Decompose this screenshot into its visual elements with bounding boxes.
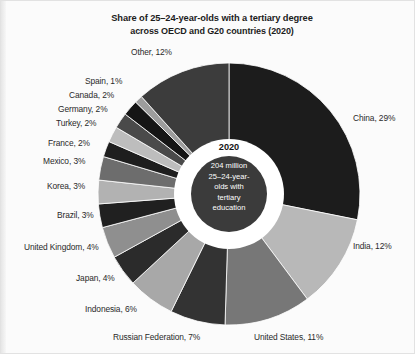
slice-label-china: China, 29% — [353, 113, 395, 123]
slice-label-korea: Korea, 3% — [47, 181, 85, 191]
slice-label-other: Other, 12% — [131, 47, 172, 57]
chart-page: Share of 25–24-year-olds with a tertiary… — [0, 0, 415, 354]
slice-label-india: India, 12% — [353, 241, 392, 251]
slice-label-canada: Canada, 2% — [69, 90, 114, 100]
slice-label-russian-federation: Russian Federation, 7% — [113, 332, 200, 342]
center-annotation-line: education — [191, 203, 267, 214]
slice-label-united-states: United States, 11% — [254, 332, 323, 342]
slice-label-spain: Spain, 1% — [85, 76, 122, 86]
center-year-label: 2020 — [179, 142, 279, 152]
slice-label-france: France, 2% — [48, 138, 90, 148]
slice-label-turkey: Turkey, 2% — [56, 118, 96, 128]
center-annotation: 204 million25–24-year-olds withtertiarye… — [191, 161, 267, 214]
center-annotation-line: 25–24-year- — [191, 172, 267, 183]
slice-label-united-kingdom: United Kingdom, 4% — [24, 242, 99, 252]
center-annotation-line: 204 million — [191, 161, 267, 172]
center-annotation-line: tertiary — [191, 193, 267, 204]
slice-label-indonesia: Indonesia, 6% — [85, 304, 137, 314]
slice-label-brazil: Brazil, 3% — [57, 210, 94, 220]
center-annotation-line: olds with — [191, 182, 267, 193]
slice-label-germany: Germany, 2% — [58, 104, 107, 114]
slice-label-mexico: Mexico, 3% — [43, 156, 85, 166]
slice-label-japan: Japan, 4% — [76, 273, 115, 283]
